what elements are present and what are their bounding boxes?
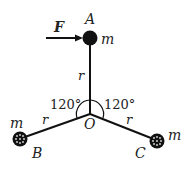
label-mass-c: m xyxy=(168,127,181,143)
label-rod-oc: r xyxy=(126,112,133,127)
label-mass-a: m xyxy=(101,31,114,47)
label-force: F xyxy=(53,19,65,35)
label-angle-left: 120° xyxy=(50,97,81,112)
label-rod-ob: r xyxy=(42,112,49,127)
label-center: O xyxy=(84,116,96,132)
label-point-c: C xyxy=(135,145,146,161)
label-point-b: B xyxy=(31,145,42,161)
label-point-a: A xyxy=(83,11,95,27)
mass-c xyxy=(150,134,165,149)
mass-b xyxy=(13,132,28,147)
rigid-body-diagram: F A m r 120° 120° r O r m B C m xyxy=(0,0,192,170)
rod-ob xyxy=(22,114,90,138)
rod-oc xyxy=(90,114,156,140)
force-arrow xyxy=(46,35,83,42)
mass-a xyxy=(83,31,98,46)
label-mass-b: m xyxy=(10,115,23,131)
label-angle-right: 120° xyxy=(104,97,135,112)
label-rod-oa: r xyxy=(78,68,85,83)
